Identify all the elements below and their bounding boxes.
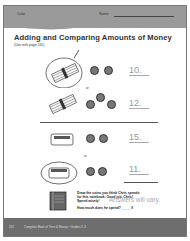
header-wave (4, 20, 186, 32)
handwritten-answer: Answers will vary. (109, 196, 160, 203)
page-subtitle: (Use with page 261) (14, 43, 44, 47)
footer-text: Complete Book of Time & Money • Grades K… (24, 225, 86, 229)
answer-1: 10. (129, 65, 149, 76)
page-title: Adding and Comparing Amounts of Money (14, 33, 172, 42)
eraser-icon (40, 161, 80, 185)
or-label: or (86, 86, 89, 90)
coin-icon (104, 66, 113, 75)
notebook-icon (47, 190, 69, 212)
pencil-bundle-icon (46, 89, 86, 119)
coin-icon (107, 100, 116, 109)
coin-icon (90, 66, 99, 75)
page-footer: 262 Complete Book of Time & Money • Grad… (4, 218, 186, 237)
coin-icon (86, 134, 95, 143)
answer-4: 11. (129, 164, 149, 175)
color-label: Color (17, 12, 25, 16)
name-label: Name (99, 12, 108, 16)
workbook-page: Color Name Adding and Comparing Amounts … (3, 5, 187, 237)
coin-icon (98, 167, 107, 176)
coin-icon (86, 100, 95, 109)
pencil-bundle-icon (44, 48, 94, 88)
eraser-icon (49, 131, 77, 149)
instruction-line-4: How much does he spend? _____¢ (77, 206, 133, 210)
coin-icon (86, 167, 95, 176)
section-divider (124, 182, 158, 183)
coin-icon (99, 134, 108, 143)
name-line (114, 16, 174, 17)
section-divider (40, 122, 158, 123)
or-label: or (84, 154, 87, 158)
answer-2: 12. (129, 98, 149, 109)
answer-3: 15. (129, 132, 149, 143)
coin-icon (96, 93, 105, 102)
instruction-line-3: Spend wisely! (77, 199, 100, 203)
page-number: 262 (9, 225, 14, 229)
